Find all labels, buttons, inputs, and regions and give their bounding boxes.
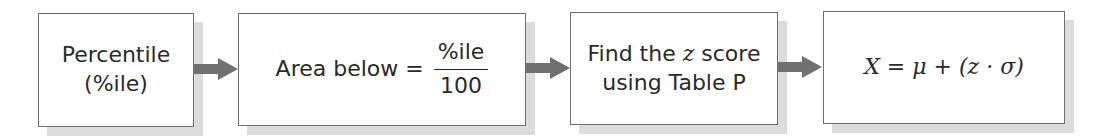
arrow-right-icon <box>194 58 238 80</box>
step-formula-box: X = μ + (z · σ) <box>823 11 1065 124</box>
step-area-box: Area below = %ile 100 <box>238 13 526 126</box>
step-percentile-box: Percentile (%ile) <box>38 13 194 127</box>
step-zscore-box: Find the z score using Table P <box>570 12 778 125</box>
z-variable: z <box>683 41 695 66</box>
arrow-right-icon <box>778 56 822 78</box>
fraction: %ile 100 <box>434 38 489 100</box>
area-below-label: Area below = <box>276 55 424 84</box>
step1-line2: (%ile) <box>62 70 171 99</box>
arrow-right-icon <box>526 57 570 79</box>
fraction-numerator: %ile <box>434 38 489 70</box>
formula-text: X = μ + (z · σ) <box>864 53 1024 82</box>
step1-line1: Percentile <box>62 41 171 70</box>
step3-line1: Find the z score <box>588 40 761 69</box>
step3-line2: using Table P <box>588 69 761 98</box>
fraction-denominator: 100 <box>440 70 482 101</box>
